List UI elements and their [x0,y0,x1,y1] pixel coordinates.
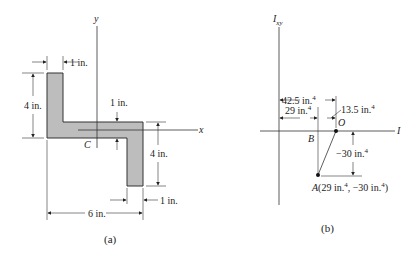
ixy-axis-label: Ixy [272,13,283,27]
x-axis-label: x [198,124,204,135]
dim-to-b: 29 in.4 [285,104,312,116]
dim-overall-width: 6 in. [88,208,106,219]
line-oa [318,131,336,175]
point-o-label: O [338,117,345,128]
z-section-shape [47,73,143,186]
point-a [316,173,320,177]
dim-left-height: 4 in. [24,100,42,111]
dim-b-to-o: 13.5 in.4 [341,103,375,115]
point-a-label: A(29 in.4, −30 in.4) [311,181,388,194]
i-axis-label: I [396,125,401,136]
figure-a: y x C 1 in. 4 in. 1 in. 4 in. 1 in. [22,13,204,246]
dim-top-flange-width: 1 in. [70,57,88,68]
figure-b: Ixy I 42.5 in.4 29 in.4 13.5 in.4 O B −3… [260,13,401,235]
dim-a-below: −30 in.4 [336,147,368,159]
dim-web-thickness: 1 in. [110,97,128,108]
caption-b: (b) [321,222,334,235]
centroid-label: C [84,139,91,150]
point-b-label: B [308,133,314,144]
y-axis-label: y [93,13,99,24]
dim-right-height: 4 in. [150,148,168,159]
dim-bottom-flange-width: 1 in. [160,195,178,206]
caption-a: (a) [104,233,117,246]
diagram-canvas: y x C 1 in. 4 in. 1 in. 4 in. 1 in. [0,0,419,259]
point-o [334,129,338,133]
